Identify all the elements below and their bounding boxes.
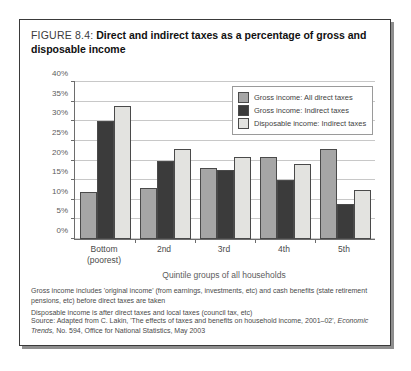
y-axis-tick-label: 15% [52,167,68,176]
bar [200,168,217,239]
figure-container: FIGURE 8.4: Direct and indirect taxes as… [19,19,391,346]
bar [320,149,337,239]
bar [217,170,234,239]
y-axis-tick-label: 5% [56,206,68,215]
source-prefix: Source: Adapted from C. Lakin, 'The effe… [31,317,337,324]
bar [174,149,191,239]
bar [97,121,114,239]
x-axis-tick [135,239,136,243]
x-axis-title: Quintile groups of all households [74,270,374,280]
x-axis-tick-label: 5th [314,244,374,266]
bar [114,106,131,239]
legend-swatch [238,105,249,116]
y-axis-tick-label: 10% [52,186,68,195]
figure-note: Gross income includes 'original income' … [31,286,381,305]
y-axis-tick-label: 20% [52,147,68,156]
source-suffix: No. 594, Office for National Statistics,… [54,327,205,334]
x-axis-tick-label: 3rd [194,244,254,266]
y-axis-tick-label: 25% [52,127,68,136]
bar [294,164,311,239]
legend-label: Gross income: Indirect taxes [254,106,349,115]
x-axis-tick [195,239,196,243]
x-axis-tick-label: Bottom(poorest) [74,244,134,266]
x-axis-tick-label: 4th [254,244,314,266]
y-axis-tick-label: 40% [52,69,68,78]
figure-number: FIGURE 8.4: [31,29,93,41]
x-axis-tick-labels: Bottom(poorest)2nd3rd4th5th [74,244,374,266]
bar-group [135,82,195,239]
figure-source: Source: Adapted from C. Lakin, 'The effe… [31,316,383,335]
bar [354,190,371,239]
chart-legend: Gross income: All direct taxesGross inco… [232,86,373,135]
bar [140,188,157,239]
legend-swatch [238,92,249,103]
legend-swatch [238,118,249,129]
legend-item: Gross income: Indirect taxes [238,104,366,117]
legend-label: Gross income: All direct taxes [254,93,353,102]
y-axis-tick-label: 30% [52,108,68,117]
legend-item: Disposable income: Indirect taxes [238,117,366,130]
bar [234,157,251,239]
bar [337,204,354,239]
y-axis-tick-label: 0% [56,226,68,235]
bar [157,161,174,240]
x-axis-tick-label: 2nd [134,244,194,266]
legend-label: Disposable income: Indirect taxes [254,119,366,128]
bar [277,180,294,239]
bar-group [75,82,135,239]
bar [80,192,97,239]
y-axis-tick-label: 35% [52,88,68,97]
x-axis-tick [315,239,316,243]
bar [260,157,277,239]
legend-item: Gross income: All direct taxes [238,91,366,104]
figure-title: FIGURE 8.4: Direct and indirect taxes as… [31,28,381,56]
x-axis-tick [255,239,256,243]
